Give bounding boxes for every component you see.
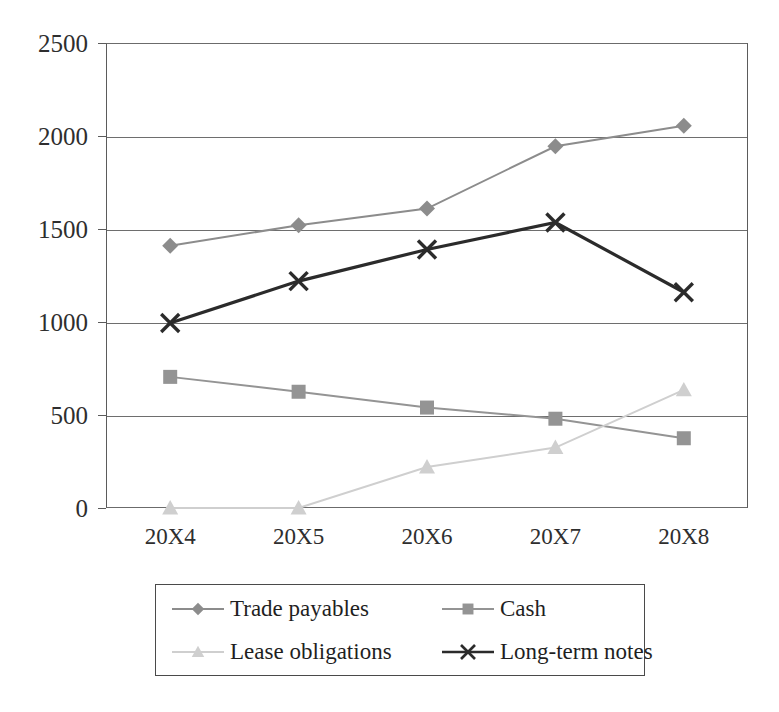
- legend-label: Long-term notes: [500, 640, 653, 663]
- gridline: [107, 137, 747, 138]
- line-chart: 25002000150010005000 20X420X520X620X720X…: [0, 0, 779, 712]
- gridline: [107, 416, 747, 417]
- legend-label: Cash: [500, 597, 546, 620]
- x-axis-tick-label: 20X7: [495, 525, 615, 548]
- x-axis-tick-label: 20X4: [110, 525, 230, 548]
- legend-item[interactable]: Lease obligations: [170, 640, 440, 663]
- x-axis-tick-label: 20X8: [624, 525, 744, 548]
- y-axis-tick-label: 0: [2, 496, 88, 521]
- legend-item[interactable]: Cash: [440, 597, 653, 620]
- gridline: [107, 230, 747, 231]
- y-axis-tick: [98, 229, 106, 230]
- x-marker: [440, 642, 496, 662]
- y-axis-tick: [98, 43, 106, 44]
- y-axis-tick-label: 2000: [2, 124, 88, 149]
- x-axis-tick-label: 20X5: [239, 525, 359, 548]
- y-axis-tick-label: 2500: [2, 31, 88, 56]
- gridline: [107, 323, 747, 324]
- y-axis-tick-label: 500: [2, 403, 88, 428]
- y-axis-tick: [98, 136, 106, 137]
- triangle-marker: [170, 642, 226, 662]
- x-axis-tick-label: 20X6: [367, 525, 487, 548]
- y-axis-tick: [98, 322, 106, 323]
- square-marker: [440, 599, 496, 619]
- y-axis-tick-label: 1000: [2, 310, 88, 335]
- y-axis-tick: [98, 508, 106, 509]
- y-axis-tick: [98, 415, 106, 416]
- legend: Trade payablesCashLease obligationsLong-…: [155, 584, 645, 676]
- plot-area: [106, 43, 748, 508]
- legend-label: Lease obligations: [230, 640, 392, 663]
- y-axis-tick-label: 1500: [2, 217, 88, 242]
- legend-item[interactable]: Long-term notes: [440, 640, 653, 663]
- legend-item[interactable]: Trade payables: [170, 597, 440, 620]
- diamond-marker: [170, 599, 226, 619]
- legend-label: Trade payables: [230, 597, 369, 620]
- chart-title: [34, 0, 734, 7]
